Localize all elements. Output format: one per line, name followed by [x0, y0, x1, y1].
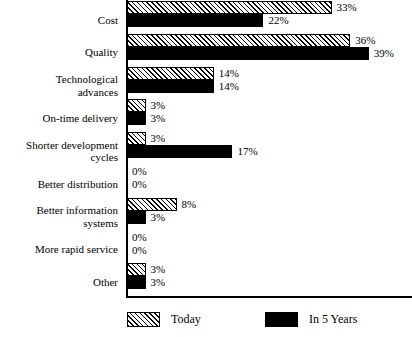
legend-swatch-in-5-years-icon: [265, 312, 298, 327]
legend-label-in-5-years: In 5 Years: [309, 311, 357, 328]
chart-legend: Today In 5 Years: [0, 310, 412, 337]
plot-area: Cost33%22%Quality36%39%Technological adv…: [0, 0, 412, 300]
bar-value-label: 39%: [374, 47, 394, 60]
bar-value-label: 0%: [132, 231, 147, 244]
bar-today: [127, 1, 332, 14]
bar-value-label: 3%: [151, 263, 166, 276]
bar-value-label: 14%: [219, 80, 239, 93]
bar-value-label: 3%: [151, 132, 166, 145]
bar-in-5-years: [127, 14, 263, 27]
bar-value-label: 0%: [132, 244, 147, 257]
horizontal-bar-chart: Cost33%22%Quality36%39%Technological adv…: [0, 0, 412, 337]
category-label: Shorter development cycles: [0, 139, 118, 164]
category-label: Technological advances: [0, 73, 118, 98]
bar-value-label: 36%: [355, 34, 375, 47]
bar-value-label: 3%: [151, 99, 166, 112]
bar-today: [127, 263, 146, 276]
bar-today: [127, 99, 146, 112]
category-label: Other: [0, 276, 118, 289]
category-label: On-time delivery: [0, 112, 118, 125]
category-label: Quality: [0, 46, 118, 59]
bar-in-5-years: [127, 47, 369, 60]
bar-today: [127, 198, 177, 211]
bar-value-label: 17%: [237, 145, 257, 158]
category-label: Better information systems: [0, 204, 118, 229]
bar-in-5-years: [127, 276, 146, 289]
bar-value-label: 22%: [268, 14, 288, 27]
bar-value-label: 0%: [132, 178, 147, 191]
bar-today: [127, 67, 214, 80]
bar-value-label: 3%: [151, 276, 166, 289]
bar-value-label: 33%: [337, 1, 357, 14]
bar-in-5-years: [127, 80, 214, 93]
bar-in-5-years: [127, 112, 146, 125]
bar-value-label: 14%: [219, 67, 239, 80]
bar-value-label: 8%: [182, 198, 197, 211]
category-label: Cost: [0, 14, 118, 27]
category-label: Better distribution: [0, 178, 118, 191]
bar-value-label: 3%: [151, 112, 166, 125]
legend-swatch-today-icon: [127, 312, 160, 327]
bar-value-label: 0%: [132, 165, 147, 178]
bar-in-5-years: [127, 145, 232, 158]
category-label: More rapid service: [0, 243, 118, 256]
bar-today: [127, 34, 350, 47]
legend-label-today: Today: [171, 311, 201, 328]
bar-value-label: 3%: [151, 211, 166, 224]
bar-in-5-years: [127, 211, 146, 224]
x-axis-line: [126, 296, 412, 298]
bar-today: [127, 132, 146, 145]
